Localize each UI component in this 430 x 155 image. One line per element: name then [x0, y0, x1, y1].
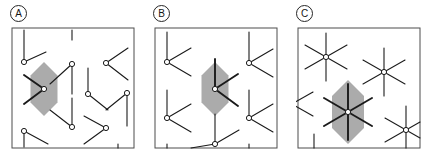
panel-label-a: A [10, 5, 27, 22]
vertex-node [41, 86, 46, 91]
figure-root: A [0, 0, 430, 155]
vertex-node [69, 61, 74, 66]
vertex-node [21, 59, 26, 64]
vertex-node [323, 54, 328, 59]
panel-a: A [2, 0, 142, 155]
panel-c: C [288, 0, 428, 155]
vertex-node [164, 115, 169, 120]
vertex-node [103, 60, 108, 65]
panel-a-svg [10, 26, 136, 150]
vertex-node [246, 115, 251, 120]
panel-b-svg [153, 26, 279, 150]
panel-a-canvas [10, 26, 136, 150]
vertex-node [403, 127, 408, 132]
panel-a-frame [12, 28, 134, 148]
vertex-node [85, 91, 90, 96]
panel-b-canvas [153, 26, 279, 150]
panel-c-canvas [296, 26, 422, 150]
vertex-node [381, 69, 386, 74]
panel-c-svg [296, 26, 422, 150]
panel-label-c: C [296, 5, 313, 22]
vertex-node [212, 86, 217, 91]
vertex-node [69, 124, 74, 129]
vertex-node [212, 141, 217, 146]
vertex-node [124, 90, 129, 95]
panel-label-b: B [153, 5, 170, 22]
vertex-node [345, 109, 350, 114]
vertex-node [103, 125, 108, 130]
vertex-node [246, 60, 251, 65]
vertex-node [21, 128, 26, 133]
vertex-node [164, 59, 169, 64]
panel-b: B [145, 0, 285, 155]
